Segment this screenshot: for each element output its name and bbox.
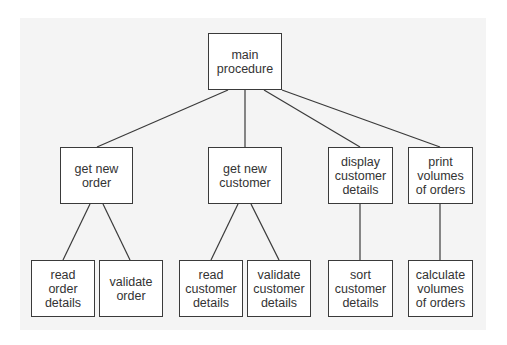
node-read-order-details: read order details — [31, 260, 95, 317]
node-validate-order: validate order — [99, 260, 163, 317]
node-main-procedure: main procedure — [208, 33, 282, 90]
node-get-new-customer: get new customer — [208, 147, 282, 204]
edge-main-print-volumes — [282, 90, 440, 147]
edge-get-customer-validate-customer — [251, 204, 279, 260]
node-get-new-order: get new order — [60, 147, 133, 204]
node-read-customer-details: read customer details — [179, 260, 243, 317]
edge-main-get-new-order — [97, 90, 228, 147]
node-validate-customer-details: validate customer details — [247, 260, 311, 317]
edge-get-order-validate-order — [103, 204, 130, 260]
node-display-customer-details: display customer details — [328, 147, 393, 204]
edge-main-display-customer-details — [264, 90, 360, 147]
node-print-volumes-of-orders: print volumes of orders — [408, 147, 473, 204]
node-calculate-volumes-of-orders: calculate volumes of orders — [408, 260, 473, 317]
node-sort-customer-details: sort customer details — [328, 260, 393, 317]
edge-get-order-read-order — [63, 204, 90, 260]
edge-get-customer-read-customer — [211, 204, 238, 260]
